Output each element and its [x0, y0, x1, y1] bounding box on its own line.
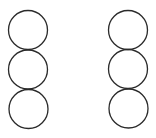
right-circle-2: [109, 50, 148, 89]
left-column: [9, 11, 49, 129]
circle-stacks-diagram: [0, 0, 156, 138]
left-circle-2: [9, 50, 48, 89]
left-circle-1: [9, 11, 48, 50]
right-circle-3: [109, 89, 148, 128]
diagram-canvas: [0, 0, 156, 138]
right-column: [109, 11, 149, 129]
left-circle-3: [9, 90, 48, 129]
right-circle-1: [109, 11, 148, 50]
